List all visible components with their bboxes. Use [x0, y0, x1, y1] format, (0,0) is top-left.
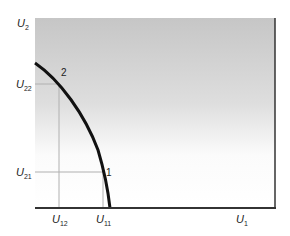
- point-2-label: 2: [61, 67, 67, 78]
- utility-frontier-chart: 2 1 U2 U22 U21 U12 U11 U1: [0, 0, 290, 236]
- u11-label: U11: [96, 213, 111, 227]
- x-axis-label: U1: [236, 213, 248, 227]
- y-axis-label: U2: [17, 17, 29, 31]
- plot-background: [35, 18, 275, 208]
- u12-label: U12: [52, 213, 68, 227]
- point-1-label: 1: [106, 167, 112, 178]
- u21-label: U21: [16, 166, 32, 180]
- u22-label: U22: [16, 78, 32, 92]
